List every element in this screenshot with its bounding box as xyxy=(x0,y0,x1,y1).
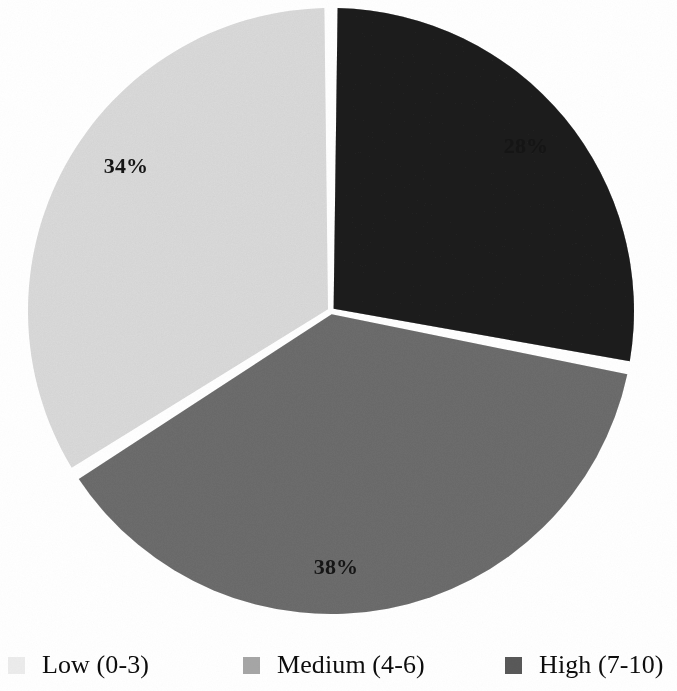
pie-slice-high[interactable] xyxy=(334,8,634,361)
legend-item-high[interactable]: High (7-10) xyxy=(505,648,664,682)
legend-label-low: Low (0-3) xyxy=(42,652,149,678)
legend-swatch-medium-icon xyxy=(243,657,260,674)
legend-swatch-high-icon xyxy=(505,657,522,674)
pie-slice-label-low: 34% xyxy=(71,155,181,177)
pie-chart: 28% 38% 34% Low (0-3) Medium (4-6) High … xyxy=(0,0,677,691)
pie-plot-area: 28% 38% 34% xyxy=(0,0,677,628)
pie-slice-label-medium: 38% xyxy=(281,556,391,578)
chart-legend: Low (0-3) Medium (4-6) High (7-10) xyxy=(0,628,677,691)
pie-svg xyxy=(0,0,677,628)
legend-label-medium: Medium (4-6) xyxy=(277,652,425,678)
pie-slice-label-high: 28% xyxy=(471,135,581,157)
legend-item-medium[interactable]: Medium (4-6) xyxy=(243,648,425,682)
legend-swatch-low-icon xyxy=(8,657,25,674)
legend-item-low[interactable]: Low (0-3) xyxy=(8,648,149,682)
legend-label-high: High (7-10) xyxy=(539,652,664,678)
